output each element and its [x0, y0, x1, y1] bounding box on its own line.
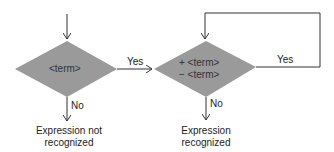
- right-no-label: No: [210, 98, 223, 109]
- left-decision-text: <term>: [49, 63, 81, 74]
- right-yes-label: Yes: [277, 54, 293, 65]
- left-no-label: No: [71, 100, 84, 111]
- left-outcome-line1: Expression not: [36, 125, 102, 136]
- right-outcome-line2: recognized: [182, 137, 231, 148]
- left-outcome-line2: recognized: [45, 137, 94, 148]
- left-yes-label: Yes: [127, 56, 143, 67]
- right-outcome-line1: Expression: [181, 125, 230, 136]
- right-decision-line2: − <term>: [179, 69, 219, 80]
- right-decision-line1: + <term>: [179, 57, 219, 68]
